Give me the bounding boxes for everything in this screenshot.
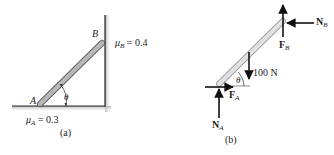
fa-subscript: A xyxy=(235,94,239,102)
fb-subscript: B xyxy=(285,44,289,52)
caption-a: (a) xyxy=(60,128,71,138)
wall-shading xyxy=(105,15,111,112)
point-a-label: A xyxy=(30,96,36,106)
ladder-friction-diagram xyxy=(0,0,334,155)
angle-theta-label-b: θ xyxy=(236,76,240,85)
mu-b-label: μB = 0.4 xyxy=(115,38,147,50)
nb-subscript: B xyxy=(323,21,327,29)
caption-b: (b) xyxy=(225,135,237,145)
panel-b xyxy=(205,5,314,118)
ladder-bar xyxy=(40,43,102,104)
nb-label: NB xyxy=(316,17,328,29)
mu-a-value: = 0.3 xyxy=(35,114,58,125)
fb-label: FB xyxy=(279,40,289,52)
point-b-label: B xyxy=(92,29,98,39)
angle-theta-label-a: θ xyxy=(64,93,68,102)
fa-label: FA xyxy=(229,90,239,102)
na-label: NA xyxy=(212,120,224,132)
weight-label: 100 N xyxy=(253,68,278,78)
na-subscript: A xyxy=(219,124,223,132)
mu-a-label: μA = 0.3 xyxy=(26,115,58,127)
mu-b-value: = 0.4 xyxy=(124,37,147,48)
floor-shading xyxy=(12,106,111,112)
